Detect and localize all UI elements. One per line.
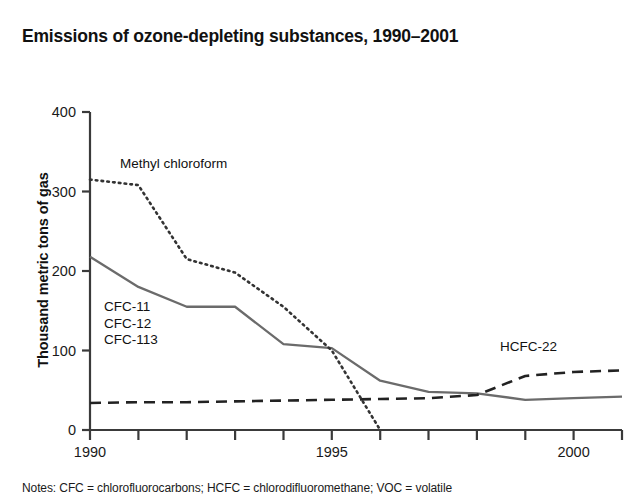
annotation-hcfc-22: HCFC-22 [500,339,557,355]
x-tick-label-1995: 1995 [302,444,362,460]
annotation-cfc-12: CFC-12 [104,316,158,333]
y-axis [82,112,90,430]
x-axis [90,430,622,440]
x-tick-label-1990: 1990 [60,444,120,460]
series-group [90,180,622,430]
annotation-cfc-11: CFC-11 [104,299,158,316]
y-tick-label-0: 0 [30,422,76,438]
y-tick-label-400: 400 [30,104,76,120]
y-tick-label-200: 200 [30,263,76,279]
series-line-hcfc-22 [90,370,622,403]
x-tick-label-2000: 2000 [544,444,604,460]
chart-canvas [0,0,637,470]
y-tick-label-100: 100 [30,343,76,359]
chart-figure: Emissions of ozone-depleting substances,… [0,0,637,494]
y-tick-label-300: 300 [30,184,76,200]
annotation-cfc-113: CFC-113 [104,332,158,349]
annotation-methyl-chloroform: Methyl chloroform [120,156,227,172]
plot-area: Thousand metric tons of gas 0 100 200 30… [0,0,637,470]
annotation-cfc-group: CFC-11 CFC-12 CFC-113 [104,299,158,349]
figure-note: Notes: CFC = chlorofluorocarbons; HCFC =… [22,481,452,494]
series-line-cfc [90,257,622,400]
